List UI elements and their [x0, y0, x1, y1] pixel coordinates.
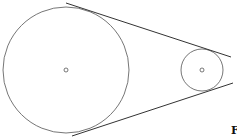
figure-label: F — [231, 124, 237, 137]
small-pulley — [181, 49, 223, 91]
pulley-diagram — [0, 0, 237, 137]
large-pulley-center — [64, 68, 68, 72]
small-pulley-center — [200, 68, 204, 72]
large-pulley — [3, 7, 129, 133]
belt-top — [66, 3, 231, 57]
belt-bottom — [72, 83, 233, 136]
